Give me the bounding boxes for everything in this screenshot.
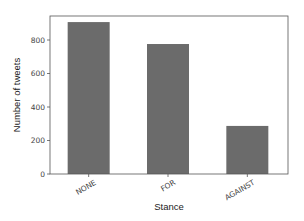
bar-against [226, 126, 268, 174]
y-tick-label-400: 400 [31, 103, 46, 112]
x-axis-ticks: NONEFORAGAINST [74, 174, 256, 202]
bar-none [68, 22, 110, 174]
y-tick-label-800: 800 [31, 36, 46, 45]
y-tick-label-600: 600 [31, 69, 46, 78]
bar-for [147, 44, 189, 174]
x-tick-label-for: FOR [159, 178, 177, 194]
bars-group [68, 22, 269, 174]
x-tick-label-against: AGAINST [223, 178, 257, 203]
y-axis-ticks: 0200400600800 [31, 36, 50, 179]
y-tick-label-0: 0 [40, 170, 45, 179]
x-axis-label: Stance [154, 201, 184, 212]
y-tick-label-200: 200 [31, 136, 46, 145]
x-tick-label-none: NONE [74, 178, 98, 197]
bar-chart: 0200400600800 NONEFORAGAINST Stance Numb… [0, 0, 304, 221]
y-axis-label: Number of tweets [11, 58, 22, 133]
